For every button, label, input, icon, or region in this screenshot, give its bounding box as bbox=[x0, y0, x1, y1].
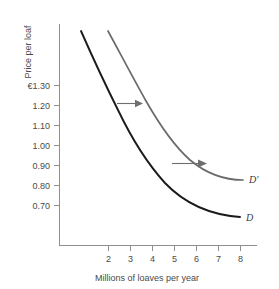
x-axis-ticks bbox=[109, 246, 241, 252]
y-tick-label: 0.80 bbox=[32, 181, 50, 191]
y-axis-title: Price per loaf bbox=[23, 25, 33, 79]
y-tick-label: 1.00 bbox=[32, 141, 50, 151]
y-tick-label: 1.10 bbox=[32, 121, 50, 131]
y-axis-tick-labels: €1.30 1.20 1.10 1.00 0.90 0.80 0.70 bbox=[27, 81, 50, 211]
x-axis-tick-labels: 2 3 4 5 6 7 8 bbox=[106, 254, 243, 264]
y-tick-label: €1.30 bbox=[27, 81, 50, 91]
x-tick-label: 5 bbox=[172, 254, 177, 264]
x-tick-label: 3 bbox=[128, 254, 133, 264]
y-tick-label: 1.20 bbox=[32, 101, 50, 111]
chart-canvas: €1.30 1.20 1.10 1.00 0.90 0.80 0.70 2 3 … bbox=[0, 0, 279, 289]
y-axis-ticks bbox=[54, 86, 60, 206]
demand-curve-d-prime bbox=[108, 31, 243, 180]
shift-arrow-lower-head bbox=[198, 160, 207, 168]
axes bbox=[60, 24, 258, 246]
x-tick-label: 6 bbox=[194, 254, 199, 264]
x-tick-label: 4 bbox=[150, 254, 155, 264]
x-axis-title: Millions of loaves per year bbox=[95, 273, 199, 283]
y-tick-label: 0.70 bbox=[32, 201, 50, 211]
y-tick-label: 0.90 bbox=[32, 161, 50, 171]
x-tick-label: 7 bbox=[216, 254, 221, 264]
x-tick-label: 8 bbox=[238, 254, 243, 264]
curve-label-d: D bbox=[245, 212, 254, 223]
shift-arrow-lower bbox=[172, 160, 207, 168]
demand-curve-chart: €1.30 1.20 1.10 1.00 0.90 0.80 0.70 2 3 … bbox=[0, 0, 279, 289]
curve-label-d-prime: D′ bbox=[248, 174, 259, 185]
shift-arrow-upper bbox=[117, 100, 143, 107]
x-tick-label: 2 bbox=[106, 254, 111, 264]
shift-arrow-upper-head bbox=[135, 100, 143, 107]
demand-curves bbox=[81, 31, 243, 217]
